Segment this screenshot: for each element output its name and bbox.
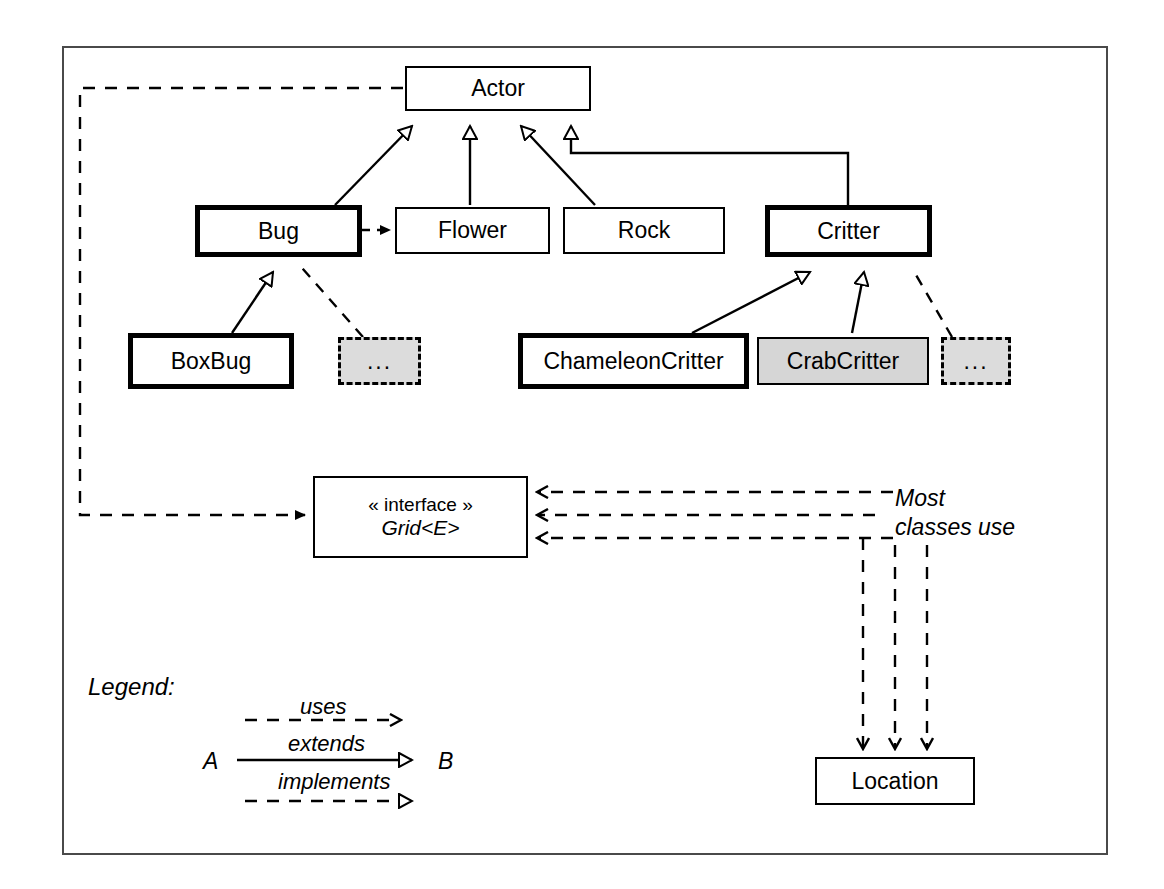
- interface-name-label: Grid<E>: [381, 516, 459, 540]
- class-box-location[interactable]: Location: [815, 757, 975, 805]
- diagram-canvas: Actor Bug Flower Rock Critter BoxBug ...…: [0, 0, 1164, 889]
- class-label-flower: Flower: [438, 217, 507, 243]
- note-most-classes-use: Most classes use: [895, 484, 1015, 542]
- class-label-critter-more: ...: [963, 348, 988, 374]
- legend-label-extends: extends: [288, 731, 365, 757]
- class-box-critter[interactable]: Critter: [765, 205, 932, 257]
- class-label-boxbug: BoxBug: [171, 348, 252, 374]
- class-box-crabcritter[interactable]: CrabCritter: [757, 337, 929, 385]
- class-label-location: Location: [852, 768, 939, 794]
- class-label-bug: Bug: [258, 218, 299, 244]
- legend-target-label: B: [438, 748, 453, 775]
- class-box-actor[interactable]: Actor: [405, 66, 591, 111]
- class-box-chameleoncritter[interactable]: ChameleonCritter: [518, 333, 749, 389]
- interface-box-grid[interactable]: « interface » Grid<E>: [313, 476, 528, 558]
- class-box-flower[interactable]: Flower: [395, 207, 550, 254]
- class-box-bug-more[interactable]: ...: [338, 337, 421, 385]
- class-box-critter-more[interactable]: ...: [941, 337, 1011, 385]
- class-label-chameleoncritter: ChameleonCritter: [543, 348, 723, 374]
- diagram-frame: [62, 46, 1108, 855]
- class-box-bug[interactable]: Bug: [195, 205, 362, 257]
- class-label-actor: Actor: [471, 75, 525, 101]
- legend-label-uses: uses: [300, 694, 346, 720]
- legend-label-implements: implements: [278, 769, 390, 795]
- class-box-rock[interactable]: Rock: [563, 207, 725, 254]
- legend-title: Legend:: [88, 673, 175, 701]
- class-box-boxbug[interactable]: BoxBug: [128, 333, 294, 389]
- interface-label-stack: « interface » Grid<E>: [368, 494, 473, 540]
- legend-source-label: A: [203, 748, 218, 775]
- class-label-bug-more: ...: [367, 348, 392, 374]
- class-label-crabcritter: CrabCritter: [787, 348, 899, 374]
- class-label-rock: Rock: [618, 217, 670, 243]
- class-label-critter: Critter: [817, 218, 880, 244]
- interface-stereotype-label: « interface »: [368, 494, 473, 516]
